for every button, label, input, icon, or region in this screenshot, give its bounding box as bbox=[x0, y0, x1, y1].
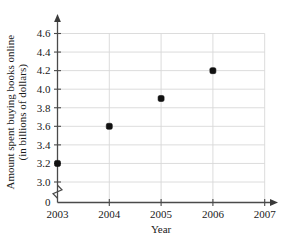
y-axis-title-line1: Amount spent buying books online bbox=[4, 35, 16, 190]
data-point[interactable] bbox=[106, 123, 112, 129]
x-tick-label: 2004 bbox=[98, 208, 121, 220]
y-tick-label: 4.4 bbox=[37, 46, 51, 58]
y-tick-label: 3.6 bbox=[37, 120, 51, 132]
data-point[interactable] bbox=[55, 160, 61, 166]
y-tick-label: 4.6 bbox=[37, 27, 51, 39]
x-tick-label: 2005 bbox=[150, 208, 173, 220]
y-tick-label: 3.4 bbox=[37, 139, 51, 151]
x-axis-title: Year bbox=[151, 223, 172, 235]
y-tick-label: 3.2 bbox=[37, 157, 51, 169]
x-tick-label: 2006 bbox=[202, 208, 225, 220]
data-point[interactable] bbox=[210, 68, 216, 74]
x-axis-arrow-icon bbox=[270, 199, 278, 206]
y-tick-label: 0 bbox=[45, 196, 51, 208]
y-tick-label: 3.0 bbox=[37, 176, 51, 188]
x-tick-label: 2003 bbox=[47, 208, 70, 220]
y-axis-title-line2: (in billions of dollars) bbox=[16, 64, 29, 161]
data-point[interactable] bbox=[158, 95, 164, 101]
y-tick-label: 4.0 bbox=[37, 83, 51, 95]
chart-container: 03.03.23.43.63.84.04.24.44.6200320042005… bbox=[0, 0, 289, 238]
x-tick-label: 2007 bbox=[254, 208, 277, 220]
scatter-plot: 03.03.23.43.63.84.04.24.44.6200320042005… bbox=[0, 0, 289, 238]
y-axis-arrow-icon bbox=[54, 14, 61, 22]
y-tick-label: 3.8 bbox=[37, 102, 51, 114]
y-tick-label: 4.2 bbox=[37, 64, 51, 76]
